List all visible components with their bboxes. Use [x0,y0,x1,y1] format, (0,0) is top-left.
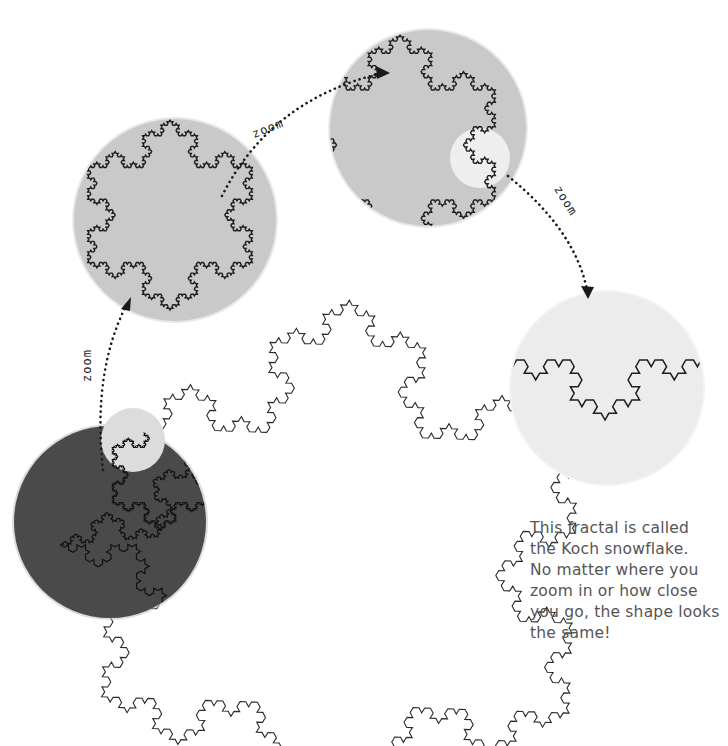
dark-circle [12,408,208,620]
mid-circle-left [72,117,278,323]
zoom-label-up: zoom [80,349,94,382]
mid-circle-top [305,28,528,255]
zoom-spot [450,128,510,188]
caption-line: the Koch snowflake. [530,539,728,560]
caption-line: This fractal is called [530,518,728,539]
caption-line: zoom in or how close [530,581,728,602]
caption-line: the same! [530,623,728,644]
caption-line: you go, the shape looks [530,602,728,623]
light-circle [501,180,709,486]
zoom-spot [101,408,165,472]
zoom-arrow-down [508,176,587,290]
caption-line: No matter where you [530,560,728,581]
caption: This fractal is called the Koch snowflak… [530,518,728,644]
